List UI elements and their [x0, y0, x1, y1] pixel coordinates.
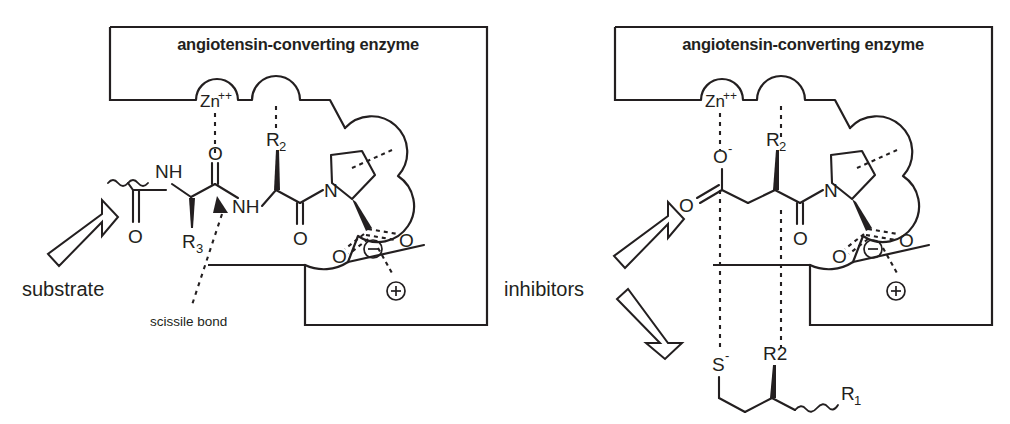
bond-c-o-double-a [700, 190, 722, 203]
carboxylate-o-minus-inhibitor: O [713, 146, 728, 167]
zinc-charge-inhibitor: ++ [723, 89, 737, 103]
r2-subscript-substrate: 2 [279, 139, 286, 154]
bond-c-ch2 [722, 190, 748, 203]
carbonyl-o-1-substrate: O [128, 226, 143, 247]
carbonyl-o-3-substrate: O [293, 228, 308, 249]
r2-pocket-inhibitor [751, 76, 850, 128]
thiolate-minus-sign: - [725, 348, 729, 363]
bond-ca2-c3 [276, 190, 300, 203]
r2-pocket-substrate [246, 76, 345, 128]
stereo-wedge-carboxylate-inhibitor [852, 199, 872, 231]
carboxylate-o-a-substrate: O [399, 230, 414, 251]
r3-label-substrate: R [182, 231, 196, 252]
zinc-charge-substrate: ++ [218, 89, 232, 103]
amide-nh-left-substrate: NH [155, 161, 182, 182]
bond-n-ca [172, 184, 191, 197]
proline-pocket-dash [352, 150, 392, 168]
carboxylate-o-b-inhibitor: O [832, 246, 847, 267]
scissile-bond-leader [192, 214, 222, 305]
scissile-bond-label: scissile bond [150, 314, 227, 329]
amide-nh-right-substrate: NH [232, 196, 259, 217]
bond-n2-ca2 [262, 190, 276, 206]
inhibitor-arrow-upper [614, 202, 684, 268]
r2-subscript-upper-inhibitor: 2 [779, 139, 786, 154]
enzyme-title-substrate: angiotensin-converting enzyme [177, 35, 419, 53]
inhibitor-panel: angiotensin-converting enzyme Zn ++ O - … [504, 27, 992, 412]
zinc-label-inhibitor: Zn [705, 92, 725, 111]
bond-c-o-double-b [697, 185, 719, 198]
bond-ca-c2 [191, 184, 215, 197]
enzyme-boundary-inhibitor [615, 27, 992, 325]
bond-ch2-ca [748, 190, 775, 203]
stereo-wedge-carboxylate-substrate [352, 199, 372, 231]
r2-label-substrate: R [266, 129, 280, 150]
carbonyl-o-upper-inhibitor: O [679, 195, 694, 216]
bond-c-proline-n-inhibitor [800, 190, 823, 203]
ace-mechanism-diagram: angiotensin-converting enzyme Zn ++ O NH… [0, 0, 1010, 424]
bond-ch2-ch2 [719, 398, 745, 412]
r1-subscript-inhibitor: 1 [854, 393, 861, 408]
figure-canvas: angiotensin-converting enzyme Zn ++ O NH… [0, 0, 1010, 424]
inhibitor-arrow-lower [617, 289, 682, 359]
zinc-label-substrate: Zn [200, 92, 220, 111]
stereo-wedge-r2-substrate [274, 150, 280, 190]
stereo-wedge-r3 [189, 198, 195, 228]
r1-label-inhibitor: R [841, 383, 855, 404]
carboxylate-o-b-substrate: O [332, 246, 347, 267]
carbonyl-o-amide-inhibitor: O [793, 228, 808, 249]
carboxylate-minus-sign-inhibitor: - [728, 141, 732, 156]
enzyme-title-inhibitor: angiotensin-converting enzyme [682, 35, 924, 53]
r2-label-lower-inhibitor: R2 [763, 343, 787, 364]
scissile-bond-arrowhead [213, 196, 228, 213]
bond-ch-squiggle [772, 398, 795, 410]
bond-c3-proline-n [300, 190, 323, 203]
substrate-caption: substrate [22, 278, 104, 300]
substrate-panel: angiotensin-converting enzyme Zn ++ O NH… [22, 27, 487, 329]
stereo-wedge-r2-inhibitor [773, 150, 779, 190]
r2-label-upper-inhibitor: R [766, 129, 780, 150]
proline-n-inhibitor: N [824, 180, 838, 201]
substrate-arrow [48, 200, 118, 266]
thiolate-s-label: S [712, 354, 725, 375]
zinc-bound-carbonyl-o: O [208, 143, 223, 164]
proline-n-substrate: N [324, 180, 338, 201]
stereo-wedge-r2-lower [770, 365, 776, 398]
inhibitors-caption: inhibitors [504, 278, 584, 300]
bond-ch2-ch [745, 398, 772, 412]
open-chain-squiggle-inhibitor [795, 404, 838, 412]
carboxylate-o-a-inhibitor: O [899, 230, 914, 251]
r3-subscript-substrate: 3 [196, 241, 203, 256]
